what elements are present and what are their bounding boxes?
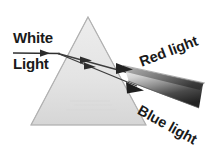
prism-dispersion-figure: White Light Red light Blue light <box>0 0 211 151</box>
label-white: White <box>13 29 53 46</box>
label-light: Light <box>13 55 49 72</box>
